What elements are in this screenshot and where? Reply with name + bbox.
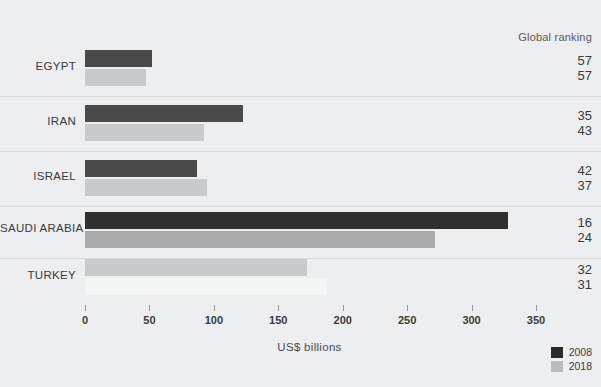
axis-tick (149, 305, 150, 311)
legend-label: 2008 (569, 346, 592, 358)
chart-row: ISRAEL4237 (0, 158, 601, 210)
chart-row: IRAN3543 (0, 103, 601, 155)
axis-tick (343, 305, 344, 311)
axis-tick-label: 50 (143, 314, 155, 326)
bar-2018 (85, 69, 146, 86)
axis-tick-label: 100 (205, 314, 223, 326)
row-divider (0, 206, 601, 207)
bar-2018 (85, 278, 327, 295)
bar-2008 (85, 160, 197, 177)
axis-tick-label: 300 (462, 314, 480, 326)
ranking-2018: 43 (546, 123, 592, 138)
ranking-2008: 42 (546, 163, 592, 178)
chart-row: TURKEY3231 (0, 257, 601, 309)
ranking-pair: 3543 (546, 108, 592, 138)
axis-tick (278, 305, 279, 311)
axis-tick (85, 305, 86, 311)
axis-tick (214, 305, 215, 311)
ranking-2018: 24 (546, 230, 592, 245)
ranking-2018: 37 (546, 178, 592, 193)
axis-tick-label: 250 (398, 314, 416, 326)
category-label: TURKEY (0, 269, 76, 281)
ranking-pair: 3231 (546, 262, 592, 292)
x-axis-title-text: US$ billions (259, 341, 341, 353)
axis-tick-label: 200 (334, 314, 352, 326)
axis-tick-label: 0 (82, 314, 88, 326)
ranking-2008: 32 (546, 262, 592, 277)
x-axis-title: US$ billions (0, 341, 601, 353)
legend-label: 2018 (569, 360, 592, 372)
global-ranking-header: Global ranking (518, 31, 592, 43)
legend-item: 2018 (551, 359, 592, 373)
category-label: SAUDI ARABIA (0, 222, 76, 234)
chart-row: EGYPT5757 (0, 48, 601, 100)
ranking-2008: 16 (546, 215, 592, 230)
bar-2018 (85, 231, 435, 248)
ranking-2018: 31 (546, 277, 592, 292)
legend-swatch (551, 347, 563, 358)
ranking-pair: 1624 (546, 215, 592, 245)
bar-2008 (85, 212, 508, 229)
category-label: EGYPT (0, 60, 76, 72)
axis-tick (407, 305, 408, 311)
category-label: ISRAEL (0, 170, 76, 182)
x-axis: 050100150200250300350 (0, 305, 601, 335)
bar-2018 (85, 179, 207, 196)
axis-tick (536, 305, 537, 311)
bar-2008 (85, 50, 152, 67)
legend-swatch (551, 361, 563, 372)
ranking-pair: 4237 (546, 163, 592, 193)
legend-item: 2008 (551, 345, 592, 359)
category-label: IRAN (0, 115, 76, 127)
bar-2008 (85, 105, 243, 122)
ranking-2008: 35 (546, 108, 592, 123)
row-divider (0, 151, 601, 152)
ranking-pair: 5757 (546, 53, 592, 83)
ranking-2018: 57 (546, 68, 592, 83)
legend: 20082018 (551, 345, 592, 373)
bar-chart: Global ranking EGYPT5757IRAN3543ISRAEL42… (0, 0, 601, 387)
bar-2008 (85, 259, 307, 276)
bar-2018 (85, 124, 204, 141)
ranking-2008: 57 (546, 53, 592, 68)
axis-tick-label: 350 (527, 314, 545, 326)
axis-tick-label: 150 (269, 314, 287, 326)
chart-row: SAUDI ARABIA1624 (0, 210, 601, 262)
row-divider (0, 96, 601, 97)
axis-tick (472, 305, 473, 311)
